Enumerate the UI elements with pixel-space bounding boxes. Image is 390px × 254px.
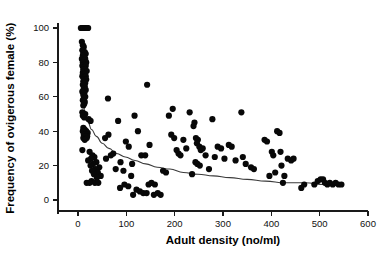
data-point	[203, 152, 209, 158]
data-point	[113, 166, 119, 172]
data-point	[85, 25, 91, 31]
data-point	[130, 192, 136, 198]
data-point	[272, 169, 278, 175]
data-point	[158, 192, 164, 198]
data-point	[125, 183, 131, 189]
data-point	[209, 116, 215, 122]
y-tick-label: 40	[38, 126, 49, 137]
data-point	[218, 145, 224, 151]
data-point	[212, 154, 218, 160]
data-point	[87, 180, 93, 186]
data-point	[177, 152, 183, 158]
x-axis-title: Adult density (no/ml)	[166, 234, 281, 246]
data-point	[126, 144, 132, 150]
data-point	[152, 181, 158, 187]
data-point	[243, 161, 249, 167]
data-point	[128, 173, 134, 179]
data-point	[200, 145, 206, 151]
y-axis-title: Frequency of ovigerous female (%)	[4, 23, 16, 214]
data-point	[221, 156, 227, 162]
data-point	[120, 168, 126, 174]
data-point	[142, 152, 148, 158]
data-point	[170, 106, 176, 112]
x-tick-label: 600	[360, 218, 376, 229]
data-point	[151, 192, 157, 198]
data-point	[240, 154, 246, 160]
y-tick-label: 60	[38, 91, 49, 102]
data-point	[264, 138, 270, 144]
data-point	[131, 113, 137, 119]
data-point	[117, 185, 123, 191]
data-point	[290, 156, 296, 162]
data-point	[277, 149, 283, 155]
data-point	[163, 169, 169, 175]
data-point	[115, 118, 121, 124]
data-point	[105, 95, 111, 101]
data-point	[190, 123, 196, 129]
data-point	[278, 163, 284, 169]
data-point	[95, 180, 101, 186]
data-point	[144, 190, 150, 196]
data-point	[266, 173, 272, 179]
data-point	[229, 144, 235, 150]
data-point	[135, 128, 141, 134]
data-point	[251, 166, 257, 172]
data-point	[189, 171, 195, 177]
data-point	[87, 118, 93, 124]
data-point	[276, 130, 282, 136]
data-point	[129, 161, 135, 167]
data-point	[110, 150, 116, 156]
data-point	[232, 157, 238, 163]
data-point	[102, 135, 108, 141]
y-tick-label: 0	[44, 194, 49, 205]
data-point	[183, 145, 189, 151]
data-point	[187, 109, 193, 115]
data-point	[180, 137, 186, 143]
data-point	[280, 180, 286, 186]
data-point	[301, 181, 307, 187]
data-point	[146, 142, 152, 148]
data-point	[171, 135, 177, 141]
data-point	[238, 109, 244, 115]
data-point	[82, 137, 88, 143]
y-tick-label: 100	[33, 22, 49, 33]
data-point	[281, 173, 287, 179]
data-point	[166, 113, 172, 119]
x-tick-label: 500	[312, 218, 328, 229]
y-tick-label: 80	[38, 57, 49, 68]
figure-container: 0204060801000100200300400500600 Adult de…	[0, 0, 390, 254]
x-tick-label: 0	[75, 218, 80, 229]
data-point	[144, 82, 150, 88]
data-point	[206, 166, 212, 172]
x-tick-label: 400	[263, 218, 279, 229]
x-tick-label: 300	[215, 218, 231, 229]
data-point	[338, 181, 344, 187]
y-tick-label: 20	[38, 160, 49, 171]
scatter-chart: 0204060801000100200300400500600 Adult de…	[0, 0, 390, 254]
x-tick-label: 200	[167, 218, 183, 229]
data-point	[270, 152, 276, 158]
data-point	[80, 102, 86, 108]
data-point	[197, 163, 203, 169]
data-point	[79, 147, 85, 153]
x-tick-label: 100	[118, 218, 134, 229]
data-point	[103, 156, 109, 162]
data-point	[117, 159, 123, 165]
